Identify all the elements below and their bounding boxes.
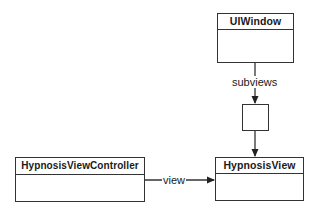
view-label: view xyxy=(162,174,186,186)
subviews-array-box xyxy=(242,104,269,131)
subviews-label: subviews xyxy=(231,76,278,88)
hypnosis-view-controller-class-box: HypnosisViewController xyxy=(15,157,145,202)
hypnosis-view-class-title: HypnosisView xyxy=(216,158,303,174)
uiwindow-class-title: UIWindow xyxy=(218,14,293,30)
hypnosis-view-class-box: HypnosisView xyxy=(215,157,304,201)
hypnosis-view-controller-class-title: HypnosisViewController xyxy=(16,158,144,175)
uiwindow-class-box: UIWindow xyxy=(217,13,294,63)
